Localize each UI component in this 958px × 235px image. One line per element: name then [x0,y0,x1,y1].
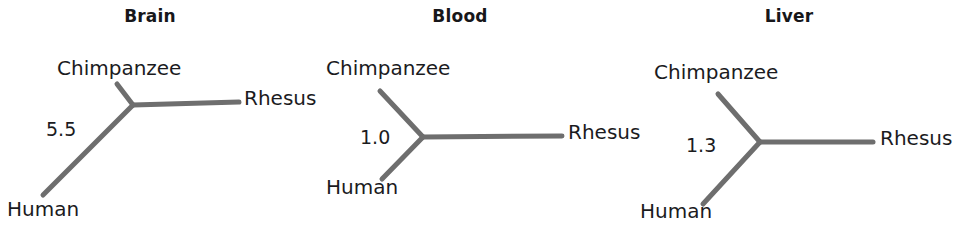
branch-length-label-human: 1.3 [686,136,716,155]
tree-panel-liver: Liver Chimpanzee Rhesus Human 1.3 [620,0,958,235]
branch-length-label-human: 5.5 [46,120,76,139]
branch-rhesus [133,102,239,105]
tree-branches-blood [300,0,620,235]
tree-panel-blood: Blood Chimpanzee Rhesus Human 1.0 [300,0,620,235]
tree-panel-brain: Brain Chimpanzee Rhesus Human 5.5 [0,0,300,235]
phylogenetic-trees-figure: Brain Chimpanzee Rhesus Human 5.5 Blood … [0,0,958,235]
branch-chimpanzee [117,84,133,105]
branch-chimpanzee [718,94,760,142]
tip-label-chimpanzee: Chimpanzee [326,58,450,78]
tip-label-human: Human [326,177,398,197]
tip-label-human: Human [7,199,79,219]
tip-label-chimpanzee: Chimpanzee [57,58,181,78]
tip-label-rhesus: Rhesus [880,128,952,148]
branch-rhesus [423,136,562,137]
tip-label-human: Human [640,201,712,221]
tip-label-chimpanzee: Chimpanzee [654,62,778,82]
branch-length-label-human: 1.0 [360,128,390,147]
